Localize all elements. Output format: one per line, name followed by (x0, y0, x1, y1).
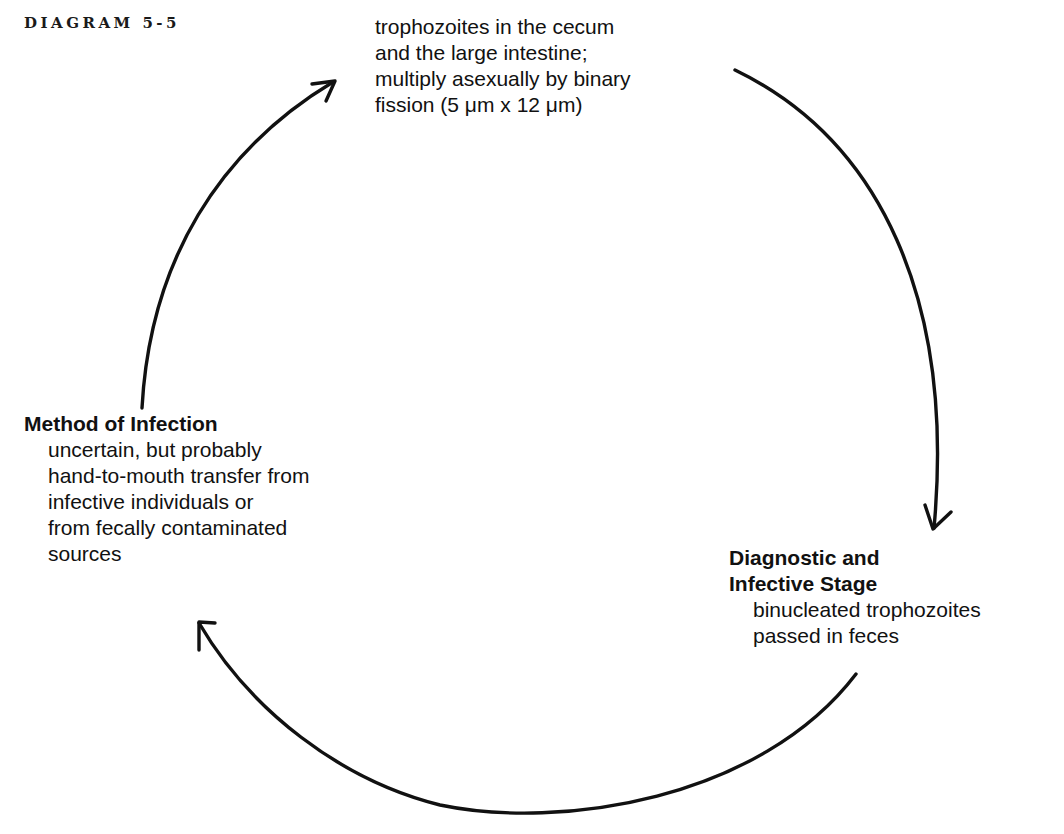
diagnostic-stage-line: passed in feces (729, 623, 981, 649)
arrow-up-left-icon (199, 622, 856, 813)
intestinal-stage-line: trophozoites in the cecum (375, 14, 631, 40)
method-of-infection-line: infective individuals or (24, 489, 309, 515)
diagnostic-stage-line: binucleated trophozoites (729, 597, 981, 623)
diagnostic-stage-text: Diagnostic and Infective Stage binucleat… (729, 545, 981, 649)
method-of-infection-text: Method of Infection uncertain, but proba… (24, 411, 309, 567)
intestinal-stage-line: multiply asexually by binary (375, 66, 631, 92)
intestinal-stage-line: and the large intestine; (375, 40, 631, 66)
diagnostic-stage-heading: Infective Stage (729, 571, 981, 597)
arrow-down-icon (735, 70, 951, 529)
diagnostic-stage-heading: Diagnostic and (729, 545, 981, 571)
arrow-up-right-icon (142, 81, 335, 408)
method-of-infection-line: hand-to-mouth transfer from (24, 463, 309, 489)
method-of-infection-line: uncertain, but probably (24, 437, 309, 463)
method-of-infection-line: from fecally contaminated (24, 515, 309, 541)
intestinal-stage-line: fission (5 μm x 12 μm) (375, 92, 631, 118)
intestinal-stage-text: trophozoites in the cecum and the large … (375, 14, 631, 118)
method-of-infection-heading: Method of Infection (24, 411, 309, 437)
method-of-infection-line: sources (24, 541, 309, 567)
